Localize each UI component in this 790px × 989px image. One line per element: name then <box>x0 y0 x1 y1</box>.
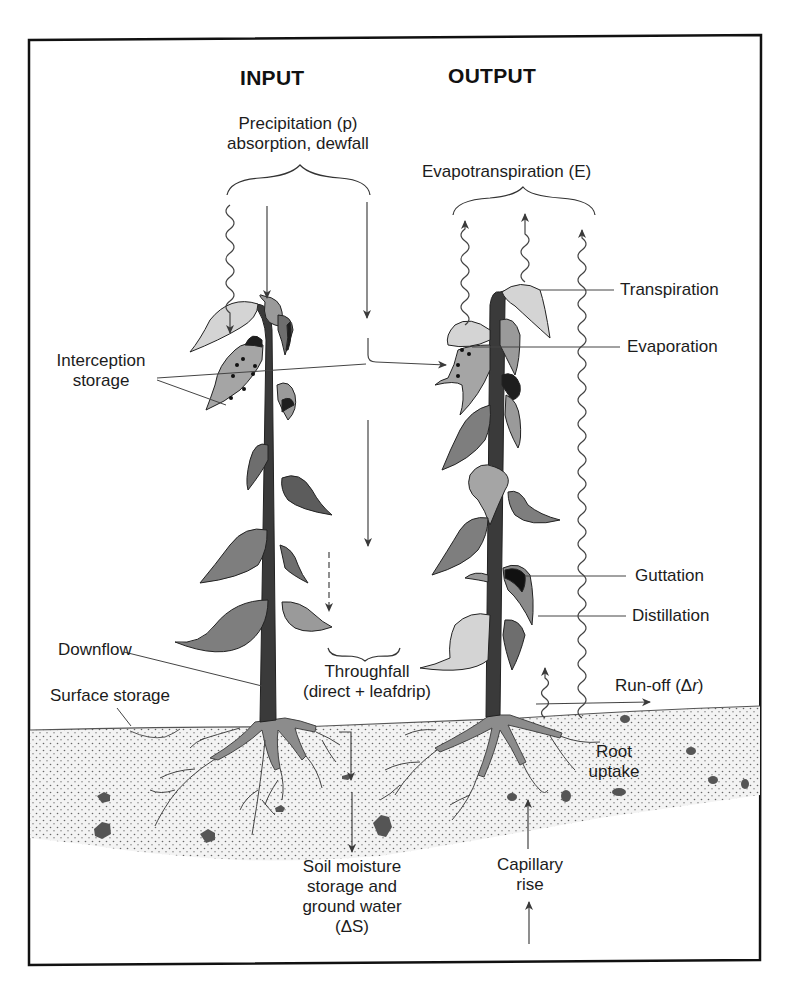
leaf <box>508 491 560 523</box>
precipitation-brace <box>227 165 370 195</box>
interception-label-line2: storage <box>46 371 156 391</box>
leaf <box>503 620 525 670</box>
stone <box>612 788 626 796</box>
leaf-dark <box>245 336 262 347</box>
interception-leader-1 <box>157 364 366 378</box>
root-uptake-label-line1: Root <box>584 742 644 762</box>
stone <box>686 747 696 755</box>
throughfall-brace <box>328 648 400 661</box>
water-drop <box>456 374 460 378</box>
evapotranspiration-brace <box>453 187 595 215</box>
water-drop <box>456 363 460 367</box>
throughfall-label-line2: (direct + leafdrip) <box>282 682 452 702</box>
throughfall-label-line1: Throughfall <box>282 662 452 682</box>
evaporation-leaf <box>435 345 490 415</box>
leader-lines <box>117 290 626 726</box>
runoff-arrow <box>536 702 650 704</box>
leaf <box>282 476 332 515</box>
runoff-label-prefix: Run-off (Δ <box>615 676 692 695</box>
soil-moisture-label-line2: storage and <box>287 877 417 897</box>
water-drop <box>467 352 471 356</box>
stone <box>708 776 718 784</box>
leaf <box>465 573 488 582</box>
interception-label-line1: Interception <box>46 351 156 371</box>
precipitation-label: Precipitation (p) absorption, dewfall <box>218 114 378 154</box>
soil-evaporation-wavy-arrow <box>578 230 586 718</box>
downflow-leader <box>124 652 262 686</box>
leaf <box>282 602 332 632</box>
capillary-rise-label: Capillary rise <box>488 855 572 895</box>
leaf <box>505 395 521 448</box>
stone <box>741 779 749 789</box>
leaf <box>175 600 268 652</box>
soil-moisture-label-line4: (ΔS) <box>287 917 417 937</box>
water-drop <box>253 364 257 368</box>
water-balance-diagram <box>0 0 790 989</box>
water-drop <box>242 387 246 391</box>
soil-moisture-label-line1: Soil moisture <box>287 857 417 877</box>
right-plant <box>420 284 560 717</box>
evapotranspiration-label: Evapotranspiration (E) <box>422 162 591 182</box>
guttation-label: Guttation <box>635 566 704 586</box>
soil-moisture-label-line3: ground water <box>287 897 417 917</box>
leaf <box>442 405 490 470</box>
leaf <box>447 321 490 347</box>
leaf <box>432 518 488 576</box>
throughfall-label: Throughfall (direct + leafdrip) <box>282 662 452 702</box>
capillary-rise-label-line2: rise <box>488 875 572 895</box>
stone <box>561 790 571 802</box>
runoff-label-suffix: ) <box>698 676 704 695</box>
transpiration-wavy-arrow <box>521 214 529 282</box>
interception-arrow <box>368 338 446 365</box>
precipitation-label-line1: Precipitation (p) <box>218 114 378 134</box>
downflow-label: Downflow <box>58 640 132 660</box>
water-drop <box>229 396 233 400</box>
transpiration-label: Transpiration <box>620 280 719 300</box>
evaporation-label: Evaporation <box>627 337 718 357</box>
water-drop <box>235 363 239 367</box>
input-header: INPUT <box>240 66 305 90</box>
runoff-label: Run-off (Δr) <box>615 676 704 696</box>
capillary-rise-label-line1: Capillary <box>488 855 572 875</box>
distillation-label: Distillation <box>632 606 709 626</box>
surface-storage-leader <box>117 708 131 726</box>
root-uptake-label: Root uptake <box>584 742 644 782</box>
water-drop <box>460 348 464 352</box>
interception-storage-label: Interception storage <box>46 351 156 391</box>
leaf <box>280 545 308 583</box>
surface-storage-label: Surface storage <box>50 686 170 706</box>
leaf-dark <box>502 374 520 400</box>
stone <box>507 793 517 801</box>
water-drop <box>251 372 255 376</box>
root-uptake-label-line2: uptake <box>584 762 644 782</box>
surface-evaporation-wavy-arrow <box>542 668 549 718</box>
stone <box>620 715 630 723</box>
water-drop <box>231 374 235 378</box>
soil-layer <box>30 706 760 861</box>
evaporation-wavy-arrow <box>461 221 469 325</box>
soil-moisture-label: Soil moisture storage and ground water (… <box>287 857 417 937</box>
left-plant <box>175 295 332 722</box>
output-header: OUTPUT <box>448 64 536 88</box>
precipitation-label-line2: absorption, dewfall <box>218 134 378 154</box>
water-drop <box>241 357 245 361</box>
leaf <box>200 529 267 583</box>
